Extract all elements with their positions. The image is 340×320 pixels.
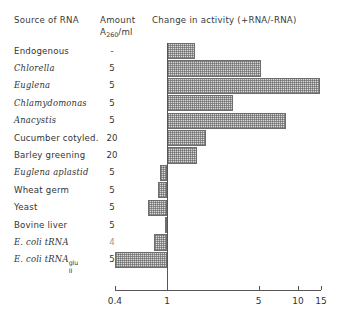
x-axis-tick [115,286,116,290]
chart-bar [167,60,261,76]
chart-baseline-axis [167,43,168,290]
x-axis-line [115,290,321,291]
chart-bar [167,95,233,111]
x-axis-tick [321,286,322,290]
x-axis-tick [167,286,168,290]
chart-bar [167,113,286,129]
figure-rna-activity: Source of RNA Amount A260/ml Change in a… [0,0,340,320]
chart-bar [167,130,206,146]
chart-bar [148,200,167,216]
chart-bar [160,165,167,181]
chart-bar [167,78,320,94]
x-axis-tick-label: 1 [164,296,170,306]
chart-bar [115,252,167,268]
x-axis-tick [298,286,299,290]
x-axis-tick [259,286,260,290]
chart-bar [154,234,167,250]
chart-bar [158,182,167,198]
x-axis-tick-label: 10 [292,296,303,306]
bar-chart-plot-area: 0.4151015 [0,0,340,320]
x-axis-tick-label: 15 [315,296,326,306]
x-axis-tick-label: 0.4 [108,296,122,306]
x-axis-tick-label: 5 [256,296,262,306]
chart-bar [167,147,197,163]
chart-bar [167,43,195,59]
